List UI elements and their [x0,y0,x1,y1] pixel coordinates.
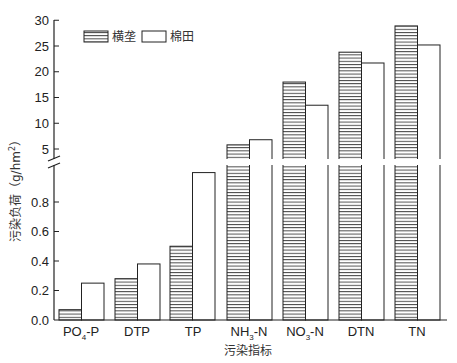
y-tick-label: 25 [35,39,49,54]
y-tick-label: 0.2 [31,283,49,298]
bar-tn-open [418,45,441,320]
y-tick-label: 0.8 [31,195,49,210]
bar-no3n-hatched [283,82,306,320]
y-tick-label: 15 [35,90,49,105]
x-category-label: NH3-N [231,324,268,342]
bar-dtn-hatched [339,52,362,320]
x-category-label: TN [408,324,425,339]
legend-label: 棉田 [170,30,194,44]
bar-chart: 510152025300.00.20.40.60.8PO4-PDTPTPNH3-… [0,0,457,363]
bar-tn-hatched [395,26,418,320]
x-axis-title: 污染指标 [224,343,272,358]
bar-tp-open [193,173,216,320]
legend-swatch-open [142,31,166,42]
bar-nh3n-hatched [227,145,250,320]
legend-swatch-hatched [84,31,108,42]
bar-po4p-open [82,283,105,320]
y-axis-title: 污染负荷（g/hm2） [8,134,23,242]
x-category-label: NO3-N [286,324,324,342]
bar-nh3n-open [250,140,273,320]
bar-dtp-hatched [115,279,138,320]
y-tick-label: 10 [35,116,49,131]
y-tick-label: 5 [42,142,49,157]
y-tick-label: 0.6 [31,224,49,239]
y-tick-label: 20 [35,64,49,79]
y-tick-label: 0.0 [31,313,49,328]
x-category-label: DTP [124,324,150,339]
x-category-label: TP [185,324,202,339]
bar-no3n-open [306,105,329,320]
bar-dtp-open [138,264,161,320]
x-category-label: PO4-P [63,324,99,342]
x-category-label: DTN [348,324,375,339]
legend-label: 横垄 [112,30,136,44]
bar-tp-hatched [170,246,193,320]
bars-group [48,26,449,320]
bar-dtn-open [362,63,385,320]
y-tick-label: 0.4 [31,254,49,269]
axis-break-gap [48,159,449,165]
legend: 横垄棉田 [84,30,194,44]
y-tick-label: 30 [35,13,49,28]
bar-po4p-hatched [59,310,82,320]
